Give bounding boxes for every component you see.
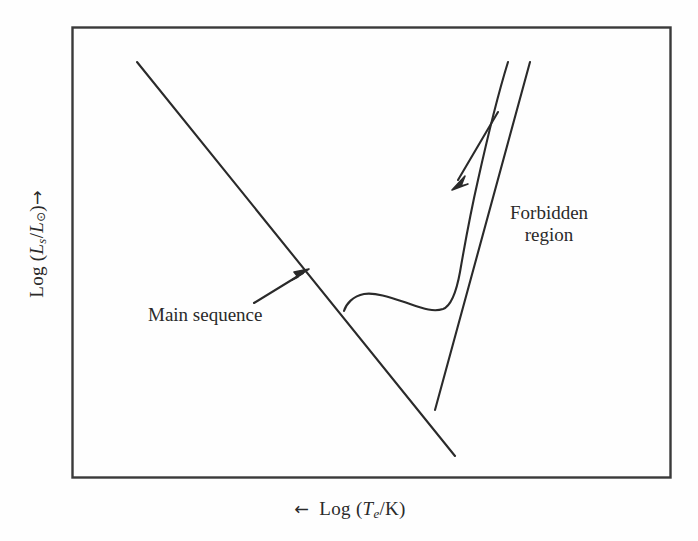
- main-sequence-line: [137, 62, 455, 456]
- x-axis-label: ← Log (Te/K): [240, 498, 460, 522]
- x-axis-quantity: T: [363, 498, 374, 519]
- forbidden-region-line2: region: [510, 224, 588, 246]
- plot-canvas: [0, 0, 698, 541]
- hr-diagram-figure: Log (Ls/L⊙)→ ← Log (Te/K) Main sequence …: [0, 0, 698, 541]
- up-arrow-icon: →: [27, 190, 47, 205]
- main-sequence-annotation: Main sequence: [148, 304, 262, 326]
- sun-symbol-icon: ⊙: [34, 212, 48, 222]
- x-axis-reference: K: [385, 498, 399, 519]
- y-axis-quantity-subscript: s: [34, 238, 49, 243]
- y-axis-label: Log (Ls/L⊙)→: [26, 144, 50, 344]
- y-axis-reference: L: [26, 222, 47, 233]
- pre-main-sequence-track: [344, 62, 508, 311]
- y-axis-divider: /: [26, 233, 47, 239]
- main-sequence-pointer-head: [292, 269, 309, 280]
- forbidden-region-line1: Forbidden: [510, 202, 588, 224]
- y-axis-log-prefix: Log (: [26, 255, 47, 298]
- y-axis-suffix: ): [26, 205, 47, 212]
- left-arrow-icon: ←: [294, 499, 309, 519]
- y-axis-quantity: L: [26, 244, 47, 255]
- evolution-arrow-shaft: [458, 112, 498, 180]
- x-axis-suffix: ): [399, 498, 406, 519]
- x-axis-log-prefix: Log (: [319, 498, 362, 519]
- plot-frame: [73, 28, 671, 478]
- forbidden-region-annotation: Forbidden region: [510, 202, 588, 247]
